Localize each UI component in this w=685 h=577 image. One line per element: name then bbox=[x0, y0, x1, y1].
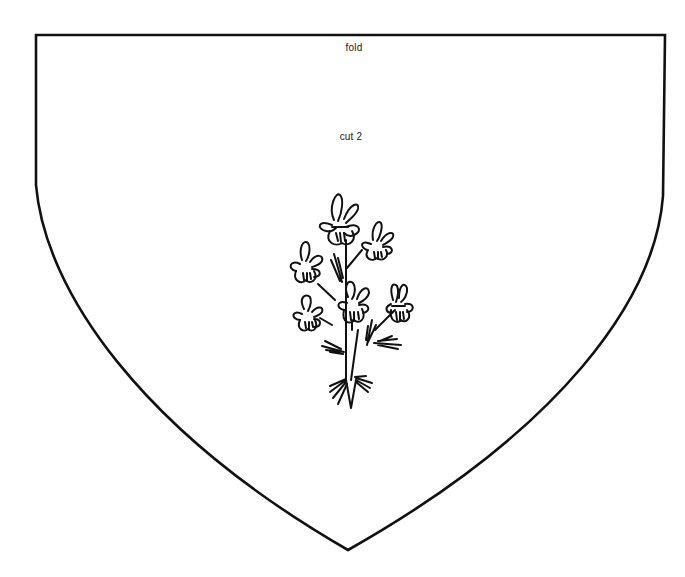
cut-count-label: cut 2 bbox=[311, 131, 391, 143]
fold-label: fold bbox=[314, 42, 394, 54]
pattern-page: fold cut 2 bbox=[0, 0, 685, 577]
shield-outline bbox=[36, 35, 665, 550]
flower-sprig-icon bbox=[291, 194, 413, 408]
shield-pattern-outline bbox=[0, 0, 685, 577]
